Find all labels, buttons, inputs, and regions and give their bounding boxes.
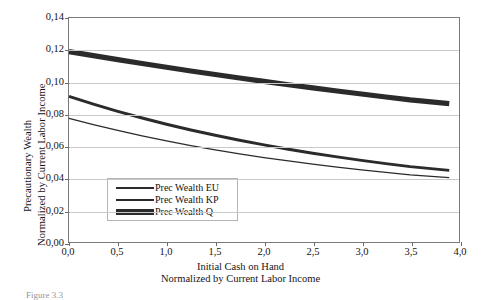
legend-swatch-eu: [112, 187, 154, 188]
x-tick-label: 0,0: [61, 247, 74, 258]
y-tick-label: 0,12: [36, 44, 64, 55]
x-tick-label: 2,0: [257, 247, 270, 258]
legend-item-eu: Prec Wealth EU: [112, 182, 233, 194]
x-tick-label: 3,0: [355, 247, 368, 258]
gridline-horizontal: [69, 115, 459, 116]
y-tick-mark: [65, 115, 69, 116]
gridline-horizontal: [69, 179, 459, 180]
series-line-prec-wealth-kp: [69, 96, 449, 170]
x-tick-label: 1,5: [208, 247, 221, 258]
y-tick-mark: [65, 18, 69, 19]
figure-caption: Figure 3.3: [26, 290, 63, 300]
y-axis-title-line1: Precautionary Wealth: [22, 120, 33, 212]
legend-item-kp: Prec Wealth KP: [112, 194, 233, 206]
x-axis-title-line1: Initial Cash on Hand: [0, 261, 481, 272]
x-axis-title-line2: Normalized by Current Labor Income: [0, 273, 481, 284]
y-tick-label: 0,04: [36, 173, 64, 184]
y-tick-mark: [65, 147, 69, 148]
series-line-prec-wealth-q: [69, 52, 449, 104]
y-tick-label: 0,00: [36, 238, 64, 249]
legend-swatch-kp: [112, 199, 154, 202]
y-tick-mark: [65, 212, 69, 213]
gridline-horizontal: [69, 50, 459, 51]
gridline-horizontal: [69, 83, 459, 84]
y-tick-label: 0,02: [36, 205, 64, 216]
y-tick-label: 0,08: [36, 109, 64, 120]
x-tick-label: 4,0: [453, 247, 466, 258]
plot-area: Prec Wealth EU Prec Wealth KP Prec Wealt…: [68, 17, 460, 243]
legend-label-kp: Prec Wealth KP: [154, 195, 218, 205]
gridline-horizontal: [69, 147, 459, 148]
legend: Prec Wealth EU Prec Wealth KP Prec Wealt…: [107, 178, 238, 221]
gridline-horizontal: [69, 212, 459, 213]
legend-label-eu: Prec Wealth EU: [154, 183, 219, 193]
y-tick-label: 0,14: [36, 12, 64, 23]
y-tick-label: 0,10: [36, 76, 64, 87]
x-axis-tick-labels: 0,00,51,01,52,02,53,03,54,0: [68, 247, 460, 261]
y-tick-label: 0,06: [36, 141, 64, 152]
x-tick-label: 1,0: [159, 247, 172, 258]
x-tick-label: 0,5: [110, 247, 123, 258]
y-tick-mark: [65, 179, 69, 180]
x-tick-label: 2,5: [306, 247, 319, 258]
x-tick-label: 3,5: [404, 247, 417, 258]
y-tick-mark: [65, 50, 69, 51]
y-tick-mark: [65, 83, 69, 84]
y-axis-tick-labels: 0,000,020,040,060,080,100,120,14: [36, 0, 64, 298]
